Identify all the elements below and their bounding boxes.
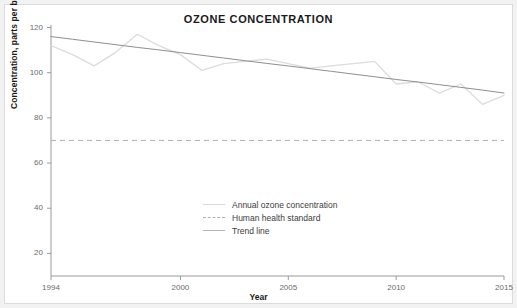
legend-item-label: Annual ozone concentration bbox=[232, 200, 337, 210]
legend-swatch-icon bbox=[203, 227, 225, 235]
legend-swatch-icon bbox=[203, 214, 225, 222]
chart-screenshot: OZONE CONCENTRATION Concentration, parts… bbox=[0, 0, 517, 308]
chart-legend: Annual ozone concentrationHuman health s… bbox=[203, 198, 337, 237]
legend-item-label: Human health standard bbox=[232, 213, 320, 223]
chart-canvas: OZONE CONCENTRATION Concentration, parts… bbox=[4, 4, 513, 304]
legend-item[interactable]: Trend line bbox=[203, 224, 337, 237]
legend-swatch-icon bbox=[203, 201, 225, 209]
legend-item-label: Trend line bbox=[232, 226, 269, 236]
plot-area bbox=[5, 5, 512, 303]
legend-item[interactable]: Annual ozone concentration bbox=[203, 198, 337, 211]
legend-item[interactable]: Human health standard bbox=[203, 211, 337, 224]
